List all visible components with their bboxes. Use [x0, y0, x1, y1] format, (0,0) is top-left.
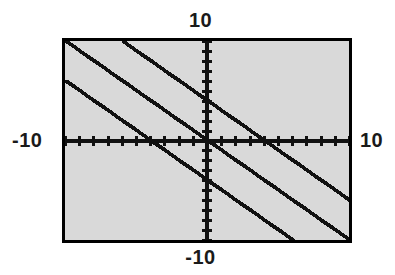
x-axis-min-label: -10 — [12, 130, 42, 150]
plot-area — [62, 38, 352, 243]
y-axis-max-label: 10 — [3, 10, 395, 30]
coordinate-plane — [65, 41, 349, 240]
graph-figure: 10 -10 10 -10 — [0, 0, 395, 275]
y-axis-min-label: -10 — [3, 247, 395, 267]
x-axis-max-label: 10 — [360, 130, 383, 150]
